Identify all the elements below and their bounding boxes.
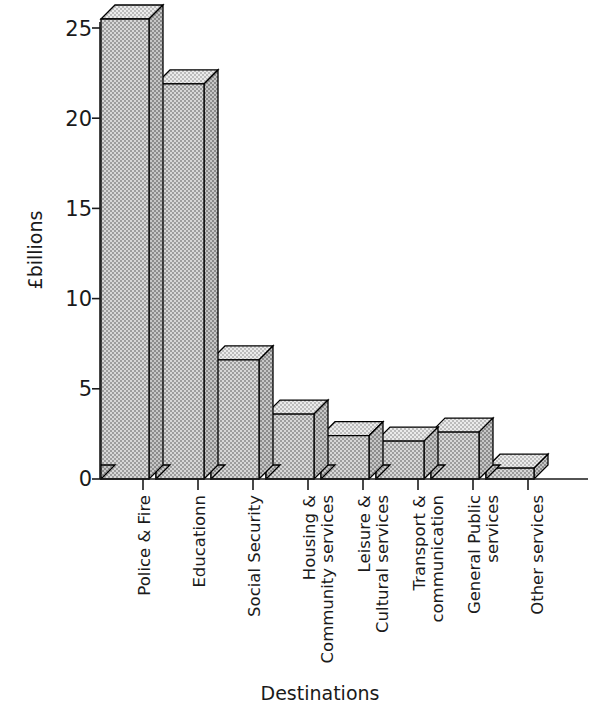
category-label-transport-line2: communication (428, 495, 447, 623)
category-label-general-public-line2: services (483, 495, 502, 563)
category-label-social-security-line1: Social Security (245, 495, 264, 617)
category-label-police-fire-line1: Police & Fire (135, 495, 154, 596)
y-tick-label-0: 0 (79, 467, 92, 491)
bar-2 (156, 70, 218, 479)
y-tick-label-10: 10 (65, 287, 92, 311)
chart-canvas: 25 20 15 10 5 0 £billions Police & Fire … (0, 0, 595, 716)
bar-7 (431, 418, 493, 479)
category-label-housing-line1: Housing & (300, 495, 319, 580)
category-label-transport-line1: Transport & (410, 495, 429, 592)
category-label-general-public-line1: General Public (465, 495, 484, 614)
bar-6 (376, 427, 438, 479)
bar-3 (211, 346, 273, 479)
bar-1 (101, 5, 163, 479)
bar-4 (266, 400, 328, 479)
bar-side-face (204, 70, 218, 479)
category-label-housing-line2: Community services (318, 495, 337, 663)
x-axis-title: Destinations (261, 682, 380, 704)
bar-side-face (149, 5, 163, 479)
category-label-leisure-line2: Cultural services (373, 495, 392, 633)
category-label-other-services-line1: Other services (528, 495, 547, 615)
category-label-leisure-line1: Leisure & (355, 495, 374, 573)
y-tick-label-20: 20 (65, 107, 92, 131)
bar-side-face (314, 400, 328, 479)
y-tick-label-25: 25 (65, 17, 92, 41)
bar-chart: 25 20 15 10 5 0 £billions Police & Fire … (0, 0, 595, 716)
bar-5 (321, 422, 383, 479)
y-tick-label-5: 5 (79, 377, 92, 401)
category-label-education-line1: Educationn (190, 495, 209, 588)
y-tick-label-15: 15 (65, 197, 92, 221)
y-axis-title: £billions (24, 211, 46, 290)
bar-side-face (259, 346, 273, 479)
bar-front-face (101, 19, 149, 479)
